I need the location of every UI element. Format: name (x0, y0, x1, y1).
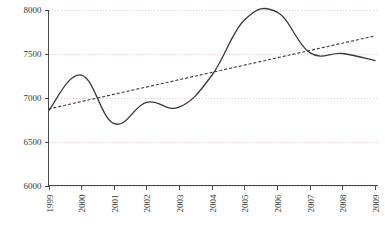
y-tick-label-7000: 7000 (24, 93, 43, 103)
x-tick-label-2007: 2007 (306, 194, 316, 213)
x-tick-label-2004: 2004 (208, 194, 218, 213)
x-tick-label-2002: 2002 (142, 195, 152, 213)
chart-background (0, 0, 385, 228)
chart-container: 60006500700075008000 1999200020012002200… (0, 0, 385, 228)
y-tick-label-7500: 7500 (24, 49, 43, 59)
x-tick-label-2005: 2005 (240, 194, 250, 213)
x-tick-label-2000: 2000 (77, 194, 87, 213)
x-tick-label-2001: 2001 (110, 195, 120, 213)
x-tick-label-1999: 1999 (45, 194, 55, 213)
y-tick-label-6500: 6500 (24, 137, 43, 147)
x-tick-label-2003: 2003 (175, 194, 185, 213)
x-tick-label-2008: 2008 (338, 194, 348, 213)
line-chart: 60006500700075008000 1999200020012002200… (0, 0, 385, 228)
y-tick-label-6000: 6000 (24, 181, 43, 191)
y-tick-label-8000: 8000 (24, 5, 43, 15)
x-tick-label-2009: 2009 (371, 194, 381, 213)
x-tick-label-2006: 2006 (273, 194, 283, 213)
